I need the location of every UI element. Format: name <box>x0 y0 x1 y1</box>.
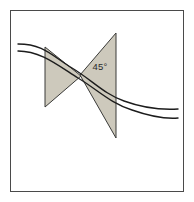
figure-root: 45° <box>0 0 194 202</box>
angle-label: 45° <box>93 61 108 72</box>
figure-svg: 45° <box>0 0 194 202</box>
